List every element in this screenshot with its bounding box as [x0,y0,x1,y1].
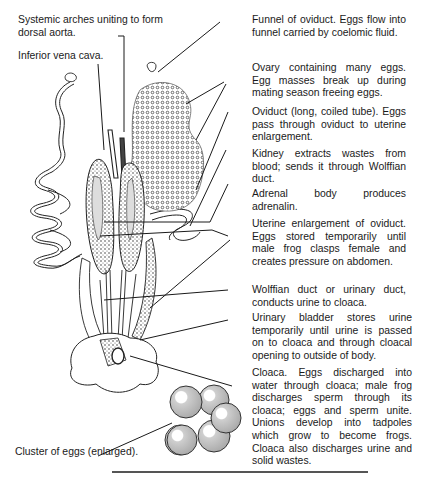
label-uterine-enlargement: Uterine enlargement of oviduct. Eggs sto… [252,218,406,268]
label-funnel-of-oviduct: Funnel of oviduct. Eggs flow into funnel… [252,14,406,39]
label-urinary-bladder: Urinary bladder stores urine temporarily… [252,312,412,362]
cloacal-opening [112,348,124,364]
wolffian-ducts [100,270,136,340]
left-oviduct-coil [31,82,82,268]
label-adrenal-body: Adrenal body produces adrenalin. [252,188,406,213]
right-oviduct-coil [150,209,200,240]
label-cluster-of-eggs: Cluster of eggs (enlarged). [15,446,175,459]
label-systemic-arches: Systemic arches uniting to form dorsal a… [18,14,174,39]
label-ovary: Ovary containing many eggs. Egg masses b… [252,62,406,100]
bottom-rule [112,471,368,473]
funnel-left [65,73,76,82]
label-inferior-vena-cava: Inferior vena cava. [18,50,148,63]
egg-cluster [165,385,241,455]
funnel-right [147,62,156,71]
label-kidney: Kidney extracts wastes from blood; sends… [252,148,406,186]
label-wolffian-duct: Wolffian duct or urinary duct, conducts … [252,284,406,309]
label-oviduct: Oviduct (long, coiled tube). Eggs pass t… [252,106,406,144]
label-cloaca: Cloaca. Eggs discharged into water throu… [252,367,412,468]
